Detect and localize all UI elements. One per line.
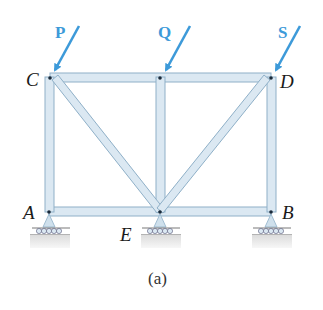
node-label-A: A xyxy=(23,203,35,222)
node-label-C: C xyxy=(26,70,39,89)
node-label-E: E xyxy=(120,225,132,244)
force-label-P: P xyxy=(55,24,65,41)
member-BD xyxy=(267,77,276,212)
truss-members xyxy=(45,73,276,216)
member-AC xyxy=(45,77,54,212)
load-arrows xyxy=(55,26,300,70)
pin-C xyxy=(48,76,52,80)
pin-D xyxy=(269,76,273,80)
node-label-B: B xyxy=(282,203,294,222)
member-CE xyxy=(52,75,163,213)
force-label-Q: Q xyxy=(158,24,171,41)
node-label-D: D xyxy=(280,72,294,91)
support-E xyxy=(141,214,181,248)
force-label-S: S xyxy=(278,24,287,41)
pin-mid-top xyxy=(158,76,162,80)
member-ED xyxy=(157,75,270,213)
truss-diagram xyxy=(0,0,323,310)
figure-caption: (a) xyxy=(148,270,167,287)
member-mid-vertical xyxy=(156,77,165,212)
support-A xyxy=(30,214,70,248)
